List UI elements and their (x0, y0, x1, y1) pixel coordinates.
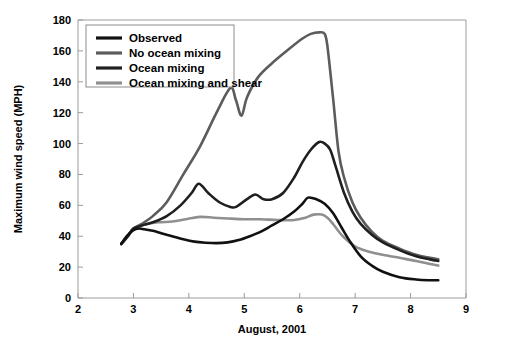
x-tick-label: 8 (408, 303, 414, 315)
series-line-observed (121, 197, 438, 280)
x-tick-label-group: 23456789 (75, 303, 469, 315)
x-tick-label: 3 (130, 303, 136, 315)
y-tick-label: 160 (53, 45, 71, 57)
y-tick-label: 120 (53, 107, 71, 119)
y-tick-label: 60 (59, 199, 71, 211)
legend-label-observed: Observed (129, 32, 182, 44)
y-axis-title: Maximum wind speed (MPH) (12, 84, 24, 233)
x-tick-group (78, 293, 466, 298)
x-tick-label: 7 (352, 303, 358, 315)
x-axis-title: August, 2001 (238, 323, 306, 335)
y-tick-label-group: 020406080100120140160180 (53, 14, 71, 304)
y-tick-label: 20 (59, 261, 71, 273)
y-tick-label: 80 (59, 168, 71, 180)
y-tick-label: 0 (65, 292, 71, 304)
x-tick-label: 9 (463, 303, 469, 315)
y-tick-label: 180 (53, 14, 71, 26)
legend-label-ocean-mixing-and-shear: Ocean mixing and shear (129, 77, 262, 89)
x-tick-label: 5 (241, 303, 247, 315)
x-tick-label: 2 (75, 303, 81, 315)
x-tick-label: 4 (186, 303, 193, 315)
y-tick-group (78, 20, 83, 298)
x-tick-label: 6 (297, 303, 303, 315)
chart-canvas: 23456789 020406080100120140160180 August… (0, 0, 508, 347)
figure-container: 23456789 020406080100120140160180 August… (0, 0, 508, 347)
y-tick-label: 100 (53, 138, 71, 150)
legend-label-no-ocean-mixing: No ocean mixing (129, 47, 221, 59)
legend-label-ocean-mixing: Ocean mixing (129, 62, 204, 74)
legend: ObservedNo ocean mixingOcean mixingOcean… (86, 25, 262, 89)
y-tick-label: 40 (59, 230, 71, 242)
y-tick-label: 140 (53, 76, 71, 88)
